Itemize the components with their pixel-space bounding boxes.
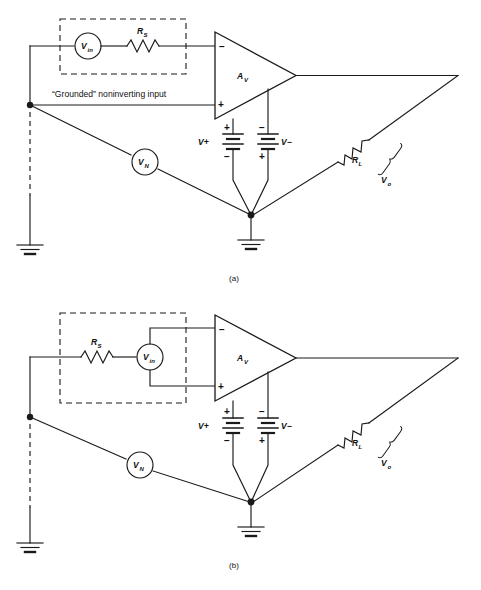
source-network-dashed-box-b [60,313,186,403]
resistor-rs-sub-a: S [144,32,148,38]
battery-vplus-positive-sign-a: + [224,122,230,133]
resistor-rl-sub-b: L [359,444,363,450]
output-voltage-sub-a: o [388,181,392,187]
output-voltage-brace-b [378,426,403,459]
voltage-source-vin-symbol-b [137,344,163,370]
wire-vplus-to-ground-a [233,149,250,213]
source-vin-sub-a: in [88,47,94,53]
opamp-triangle-b [215,315,296,401]
resistor-rs-symbol-a [127,40,159,52]
wire-load-upper-a [369,76,458,141]
battery-vminus-negative-sign-b: − [259,406,265,417]
opamp-inverting-sign-a: − [219,41,225,52]
circuit-diagram-panel-a: “Grounded” noninverting input A V − + + … [0,0,481,295]
grounded-noninverting-input-label-a: “Grounded” noninverting input [52,89,167,99]
opamp-gain-label-a: A [236,71,243,81]
wire-vn-right-b [153,471,250,502]
voltage-source-vn-symbol-b [127,452,153,478]
opamp-noninverting-sign-a: + [218,99,224,110]
wire-load-lower-b [253,445,338,502]
source-vn-sub-a: N [145,163,150,169]
opamp-gain-label-b: A [236,353,243,363]
supply-vplus-label-a: V+ [198,137,209,147]
battery-vminus-positive-sign-a: + [259,151,265,162]
resistor-rl-sub-a: L [359,161,363,167]
source-vin-sub-b: in [150,358,156,364]
figure-page: “Grounded” noninverting input A V − + + … [0,0,481,590]
battery-vplus-positive-sign-b: + [224,406,230,417]
wire-vin-to-noninverting-b [150,370,215,386]
opamp-triangle-a [215,32,296,119]
resistor-rs-sub-b: S [98,343,102,349]
panel-caption-b: (b) [229,561,239,570]
supply-vminus-label-b: V− [281,421,292,431]
source-vn-sub-b: N [140,466,145,472]
resistor-rs-symbol-b [81,351,113,363]
wire-vplus-to-ground-b [233,433,250,500]
output-voltage-sub-b: o [388,464,392,470]
supply-vplus-label-b: V+ [198,421,209,431]
battery-vplus-negative-sign-b: − [224,435,230,446]
wire-load-upper-b [369,358,458,423]
wire-vn-left-b [30,417,126,459]
panel-caption-a: (a) [229,274,239,283]
circuit-diagram-panel-b: A V − + + − V+ − + V− [0,295,481,590]
opamp-inverting-sign-b: − [219,324,225,335]
opamp-noninverting-sign-b: + [218,381,224,392]
battery-vminus-positive-sign-b: + [259,435,265,446]
wire-vn-left-a [30,105,131,155]
voltage-source-vin-symbol-a [75,33,101,59]
battery-vplus-negative-sign-a: − [224,151,230,162]
voltage-source-vn-symbol-a [132,149,158,175]
supply-vminus-label-a: V− [281,137,292,147]
wire-load-lower-a [253,162,338,215]
battery-vminus-negative-sign-a: − [259,122,265,133]
wire-vn-right-a [158,169,251,215]
wire-vin-to-inverting-b [150,328,215,344]
output-voltage-brace-a [378,143,403,176]
